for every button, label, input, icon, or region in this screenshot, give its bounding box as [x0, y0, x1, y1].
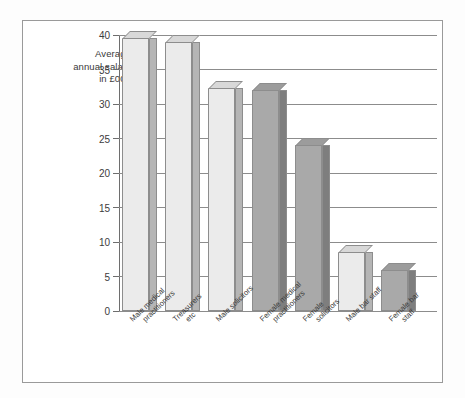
y-tick-mark-10 [113, 242, 119, 243]
y-tick-mark-5 [113, 276, 119, 277]
y-tick-label-10: 10 [99, 237, 110, 248]
plot-area: 0510152025303540 [119, 35, 437, 311]
y-tick-label-30: 30 [99, 99, 110, 110]
bar [122, 38, 149, 311]
y-tick-label-40: 40 [99, 30, 110, 41]
bar-side-face [192, 42, 200, 311]
bar [208, 88, 235, 311]
bar-side-face [235, 88, 243, 311]
y-tick-label-15: 15 [99, 202, 110, 213]
y-tick-mark-15 [113, 207, 119, 208]
gridline-40 [119, 35, 437, 36]
y-tick-mark-20 [113, 173, 119, 174]
bar [165, 42, 192, 311]
bar-front-face [122, 38, 149, 311]
bar-side-face [279, 90, 287, 311]
y-tick-mark-35 [113, 69, 119, 70]
y-tick-mark-0 [113, 311, 119, 312]
y-tick-label-0: 0 [104, 306, 110, 317]
bar-front-face [165, 42, 192, 311]
bar-front-face [208, 88, 235, 311]
y-tick-mark-40 [113, 35, 119, 36]
y-tick-mark-30 [113, 104, 119, 105]
bar [252, 90, 279, 311]
y-tick-label-20: 20 [99, 168, 110, 179]
y-tick-label-5: 5 [104, 271, 110, 282]
y-tick-label-35: 35 [99, 64, 110, 75]
y-tick-mark-25 [113, 138, 119, 139]
bar-side-face [149, 38, 157, 311]
chart-page: Average annual salary in £000 0510152025… [0, 0, 465, 398]
y-tick-label-25: 25 [99, 133, 110, 144]
bar-front-face [252, 90, 279, 311]
bar-side-face [322, 145, 330, 311]
